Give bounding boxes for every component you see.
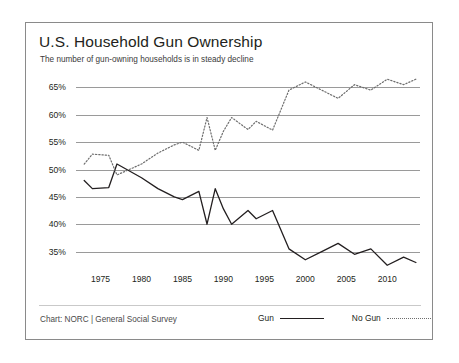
legend-item-gun: Gun	[258, 313, 324, 323]
y-axis-tick-label: 40%	[26, 219, 66, 229]
legend-label-gun: Gun	[258, 313, 274, 323]
legend-swatch-nogun-icon	[387, 318, 431, 319]
chart-title: U.S. Household Gun Ownership	[39, 33, 262, 51]
x-axis-tick-label: 1975	[91, 274, 110, 284]
y-axis-tick-label: 45%	[26, 192, 66, 202]
x-axis-tick-label: 1995	[255, 274, 274, 284]
series-line-gun	[84, 164, 416, 265]
footer-divider	[39, 305, 421, 306]
chart-card: U.S. Household Gun Ownership The number …	[25, 22, 433, 340]
x-axis-tick-label: 1990	[214, 274, 233, 284]
legend-label-nogun: No Gun	[352, 313, 381, 323]
x-axis-tick-label: 1985	[173, 274, 192, 284]
y-axis-tick-label: 55%	[26, 137, 66, 147]
chart-legend: Gun No Gun	[258, 313, 431, 323]
x-axis-tick-label: 1980	[132, 274, 151, 284]
series-line-no-gun	[84, 79, 416, 175]
y-axis-tick-label: 50%	[26, 165, 66, 175]
chart-subtitle: The number of gun-owning households is i…	[40, 55, 253, 64]
y-axis-tick-label: 35%	[26, 247, 66, 257]
legend-swatch-gun-icon	[280, 318, 324, 319]
y-axis-tick-label: 60%	[26, 110, 66, 120]
series-lines	[76, 71, 420, 268]
x-axis-tick-label: 2010	[378, 274, 397, 284]
chart-credit: Chart: NORC | General Social Survey	[40, 315, 177, 324]
y-axis-tick-label: 65%	[26, 82, 66, 92]
plot-area: 35%40%45%50%55%60%65% 197519801985199019…	[76, 71, 420, 268]
x-axis-tick-label: 2005	[337, 274, 356, 284]
legend-item-nogun: No Gun	[352, 313, 431, 323]
x-axis-tick-label: 2000	[296, 274, 315, 284]
